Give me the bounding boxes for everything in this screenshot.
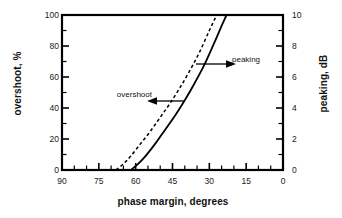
annotation-overshoot: overshoot: [117, 90, 152, 99]
y-right-tick-10: 10: [292, 10, 301, 20]
y-left-tick-40: 40: [33, 103, 59, 113]
x-tick-15: 15: [241, 176, 250, 186]
x-tick-60: 60: [131, 176, 140, 186]
y-left-tick-0: 0: [33, 165, 59, 175]
plot-frame: [62, 15, 283, 170]
peaking-arrow: [196, 60, 236, 67]
y-left-tick-60: 60: [33, 72, 59, 82]
y-left-tick-100: 100: [33, 10, 59, 20]
y-left-tick-80: 80: [33, 41, 59, 51]
y-right-tick-4: 4: [292, 103, 297, 113]
x-tick-30: 30: [205, 176, 214, 186]
x-tick-90: 90: [57, 176, 66, 186]
overshoot-arrow: [147, 97, 184, 104]
y-right-tick-2: 2: [292, 134, 297, 144]
y-left-tick-20: 20: [33, 134, 59, 144]
y-right-tick-8: 8: [292, 41, 297, 51]
chart-figure: overshoot, % peaking, dB phase margin, d…: [0, 0, 342, 218]
x-tick-75: 75: [94, 176, 103, 186]
x-tick-0: 0: [281, 176, 286, 186]
y-right-tick-6: 6: [292, 72, 297, 82]
annotation-peaking: peaking: [232, 55, 260, 64]
x-tick-45: 45: [168, 176, 177, 186]
y-right-tick-0: 0: [292, 165, 297, 175]
